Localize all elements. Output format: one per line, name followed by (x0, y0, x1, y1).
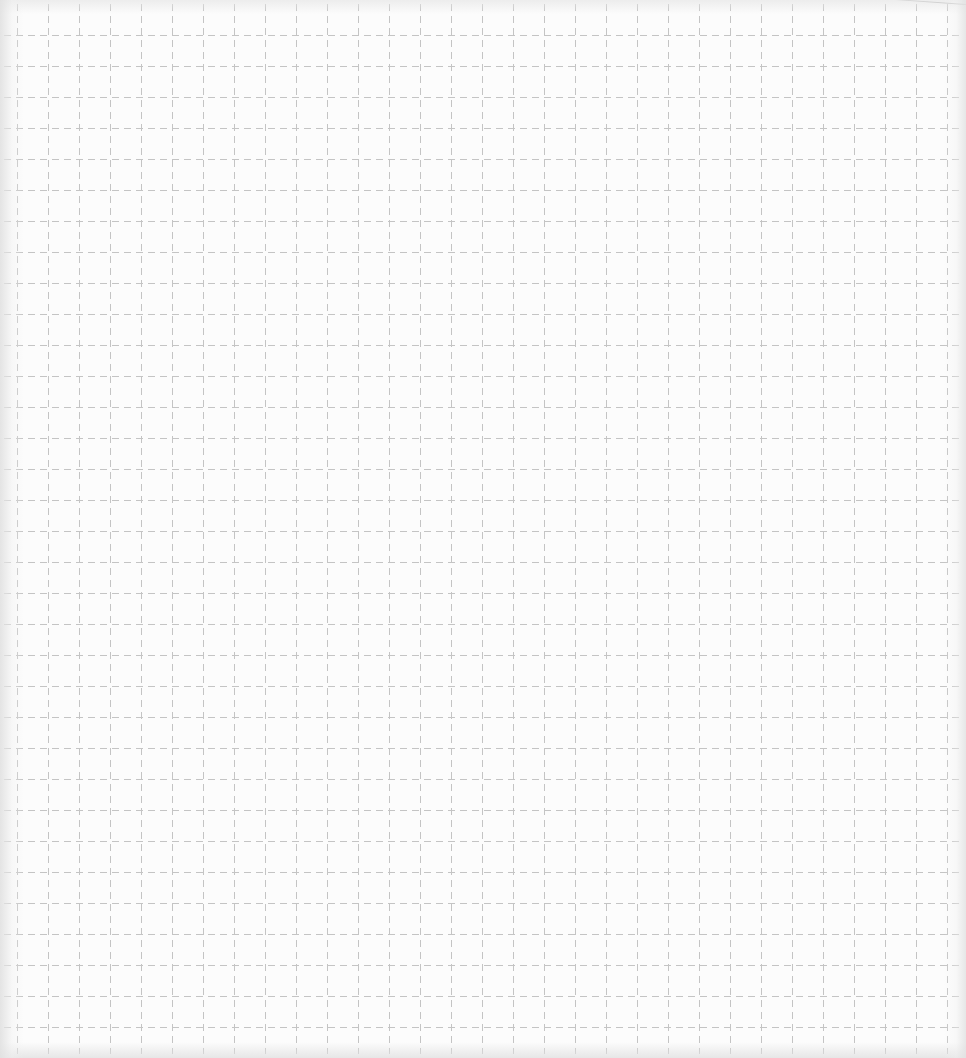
grid-paper-sheet (0, 0, 966, 1058)
dashed-grid (0, 0, 966, 1058)
